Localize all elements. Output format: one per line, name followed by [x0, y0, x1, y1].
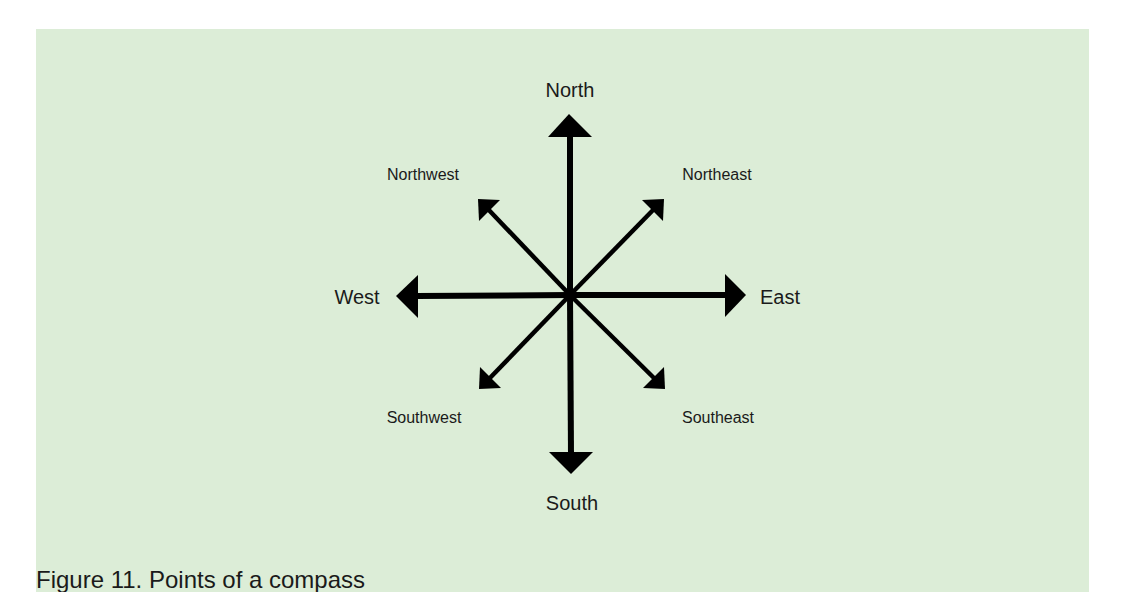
northeast-arrow: [570, 199, 664, 295]
north-arrow: [548, 114, 592, 295]
label-northeast: Northeast: [682, 166, 751, 184]
west-arrow: [396, 275, 570, 318]
label-south: South: [546, 492, 598, 515]
label-southeast: Southeast: [682, 409, 754, 427]
figure-caption: Figure 11. Points of a compass: [36, 566, 365, 592]
northwest-arrow: [478, 199, 570, 295]
south-arrow: [549, 295, 593, 474]
figure-page: North Northwest Northeast West East Sout…: [0, 0, 1133, 592]
southwest-arrow: [479, 295, 570, 389]
compass-center: [565, 290, 575, 300]
label-west: West: [334, 286, 379, 309]
label-east: East: [760, 286, 800, 309]
east-arrow: [570, 274, 746, 317]
label-southwest: Southwest: [387, 409, 462, 427]
label-north: North: [546, 79, 595, 102]
southeast-arrow: [570, 295, 665, 389]
label-northwest: Northwest: [387, 166, 459, 184]
